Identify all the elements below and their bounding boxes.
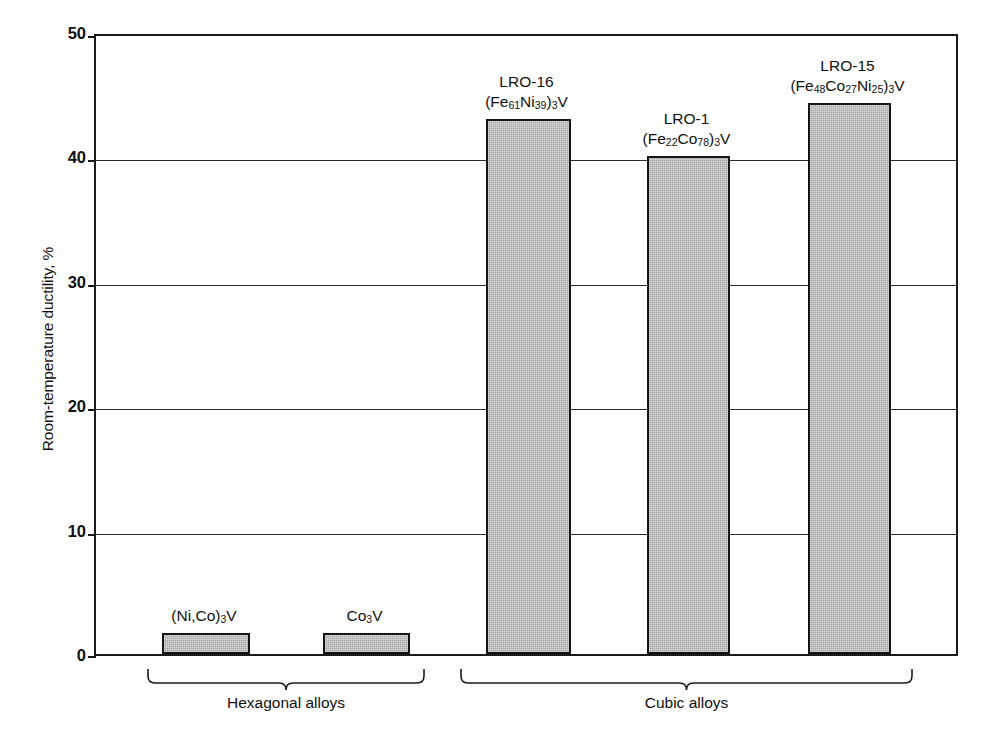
- y-tick-label: 20: [40, 398, 86, 415]
- bar-lro-15[interactable]: [808, 103, 891, 654]
- bar-label-formula: (Fe48Co27Ni25)3V: [790, 76, 904, 97]
- y-tick-label: 40: [40, 149, 86, 166]
- brace-icon: [147, 668, 425, 692]
- bar-label-lro-16: LRO-16(Fe61Ni39)3V: [485, 72, 568, 113]
- y-tick-mark: [88, 36, 96, 38]
- bar-label-formula: (Fe22Co78)3V: [643, 129, 731, 150]
- y-tick-mark: [88, 656, 96, 658]
- plot-area: [94, 34, 958, 656]
- bar-chart: Room-temperature ductility, % 0102030405…: [0, 0, 985, 735]
- group-label-hexagonal-alloys: Hexagonal alloys: [147, 694, 425, 712]
- group-brace-hexagonal-alloys: Hexagonal alloys: [147, 668, 425, 728]
- bar-label-formula: (Ni,Co)3V: [171, 606, 236, 627]
- y-tick-mark: [88, 285, 96, 287]
- y-tick-label: 30: [40, 274, 86, 291]
- y-tick-mark: [88, 160, 96, 162]
- group-label-cubic-alloys: Cubic alloys: [460, 694, 913, 712]
- y-tick-mark: [88, 409, 96, 411]
- bar-label-co3v: Co3V: [346, 606, 382, 627]
- y-axis-tick-labels: 01020304050: [30, 0, 86, 735]
- bar-label-lro-1: LRO-1(Fe22Co78)3V: [643, 109, 731, 150]
- bar-lro-16[interactable]: [486, 119, 571, 654]
- bar-label-formula: (Fe61Ni39)3V: [485, 92, 568, 113]
- brace-icon: [460, 668, 913, 692]
- bar-label-name: LRO-16: [485, 72, 568, 92]
- bar-label-lro-15: LRO-15(Fe48Co27Ni25)3V: [790, 56, 904, 97]
- bar-label-formula: Co3V: [346, 606, 382, 627]
- y-tick-label: 50: [40, 25, 86, 42]
- bar-lro-1[interactable]: [647, 156, 730, 654]
- bar-label-name: LRO-15: [790, 56, 904, 76]
- y-tick-label: 10: [40, 523, 86, 540]
- y-tick-mark: [88, 534, 96, 536]
- bar-co3v[interactable]: [323, 633, 410, 654]
- bar-label-name: LRO-1: [643, 109, 731, 129]
- y-tick-label: 0: [40, 647, 86, 664]
- group-brace-cubic-alloys: Cubic alloys: [460, 668, 913, 728]
- bar-label-ni-co-3v: (Ni,Co)3V: [171, 606, 236, 627]
- bar-ni-co-3v[interactable]: [162, 633, 250, 654]
